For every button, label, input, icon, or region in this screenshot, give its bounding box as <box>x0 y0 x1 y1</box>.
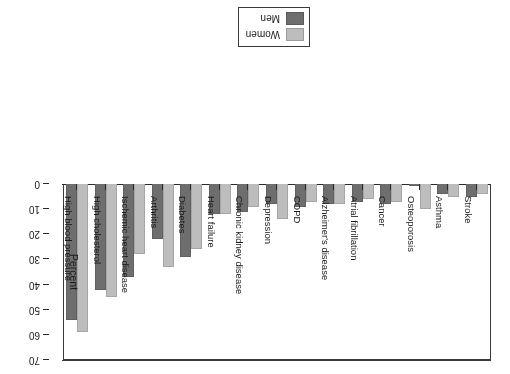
bar-women <box>220 184 231 214</box>
bar-women <box>248 184 259 207</box>
bar-women <box>106 184 117 297</box>
legend-swatch-women <box>286 29 304 42</box>
category-tick <box>133 184 134 190</box>
bar-women <box>191 184 202 249</box>
category-label: Ischemic heart disease <box>120 196 130 293</box>
value-tick-label: 10 <box>18 204 40 214</box>
value-tick-label: 20 <box>18 229 40 239</box>
category-tick <box>219 184 220 190</box>
bar-women <box>306 184 317 202</box>
category-tick <box>190 184 191 190</box>
bar-group <box>466 184 488 197</box>
category-label: Atrial fibrillation <box>349 196 359 260</box>
bar-women <box>448 184 459 197</box>
category-tick <box>247 184 248 190</box>
bar-women <box>391 184 402 202</box>
category-label: High cholesterol <box>92 196 102 264</box>
category-label: Osteoporosis <box>406 196 416 252</box>
value-axis-title: Percent <box>68 254 80 290</box>
bar-women <box>477 184 488 194</box>
value-tick-label: 40 <box>18 280 40 290</box>
value-tick-label: 50 <box>18 305 40 315</box>
plot-outer-edge <box>62 360 491 361</box>
bar-women <box>334 184 345 204</box>
bar-women <box>363 184 374 199</box>
category-tick <box>162 184 163 190</box>
category-tick <box>362 184 363 190</box>
value-tick-label: 60 <box>18 330 40 340</box>
bar-women <box>277 184 288 219</box>
category-label: Arthritis <box>149 196 159 228</box>
category-tick <box>333 184 334 190</box>
legend-item-men: Men <box>244 12 304 26</box>
category-label: Chronic kidney disease <box>234 196 244 294</box>
category-tick <box>105 184 106 190</box>
value-tick <box>43 233 49 234</box>
value-tick <box>43 309 49 310</box>
value-axis: Percent 010203040506070 <box>22 0 62 374</box>
category-label: Cancer <box>377 196 387 227</box>
value-tick <box>43 359 49 360</box>
value-tick <box>43 284 49 285</box>
bar-women <box>163 184 174 267</box>
category-label: Asthma <box>434 196 444 228</box>
value-tick <box>43 183 49 184</box>
category-label: COPD <box>292 196 302 223</box>
legend-label-men: Men <box>261 14 280 25</box>
value-tick-label: 30 <box>18 254 40 264</box>
value-tick <box>43 258 49 259</box>
bar-women <box>420 184 431 209</box>
chart-legend: Women Men <box>238 7 310 47</box>
value-tick-label: 70 <box>18 355 40 365</box>
category-tick <box>276 184 277 190</box>
legend-item-women: Women <box>244 28 304 42</box>
category-tick <box>76 184 77 190</box>
category-label: Heart failure <box>206 196 216 248</box>
bar-chart-figure: Women Men StrokeAsthmaOsteoporosisCancer… <box>0 0 510 374</box>
category-label: Alzheimer's disease <box>320 196 330 280</box>
category-tick <box>419 184 420 190</box>
value-tick <box>43 334 49 335</box>
category-label: Depression <box>263 196 273 244</box>
category-tick <box>476 184 477 190</box>
category-tick <box>390 184 391 190</box>
value-tick <box>43 208 49 209</box>
category-label: Stroke <box>463 196 473 223</box>
legend-swatch-men <box>286 13 304 26</box>
category-tick <box>305 184 306 190</box>
value-tick-label: 0 <box>18 179 40 189</box>
category-tick <box>447 184 448 190</box>
legend-label-women: Women <box>246 30 280 41</box>
bar-group <box>437 184 459 197</box>
category-label: Diabetes <box>177 196 187 234</box>
bar-women <box>134 184 145 254</box>
